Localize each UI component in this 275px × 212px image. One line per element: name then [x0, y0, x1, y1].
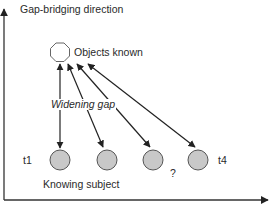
subject-circle-t2	[97, 150, 117, 170]
time-label-t1: t1	[23, 155, 32, 166]
diagram-canvas	[0, 0, 275, 212]
object-octagon-icon	[51, 43, 70, 62]
subject-circle-t3	[143, 150, 163, 170]
knowing-subject-label: Knowing subject	[43, 179, 119, 190]
subject-circle-t4	[188, 150, 208, 170]
unknown-marker: ?	[170, 168, 176, 179]
gap-bridging-diagram: Gap-bridging direction Objects known Wid…	[0, 0, 275, 212]
y-axis-label: Gap-bridging direction	[20, 4, 123, 15]
time-label-t4: t4	[218, 155, 227, 166]
widening-gap-label: Widening gap	[50, 99, 116, 110]
subject-circle-t1	[50, 150, 70, 170]
objects-known-label: Objects known	[74, 47, 143, 58]
